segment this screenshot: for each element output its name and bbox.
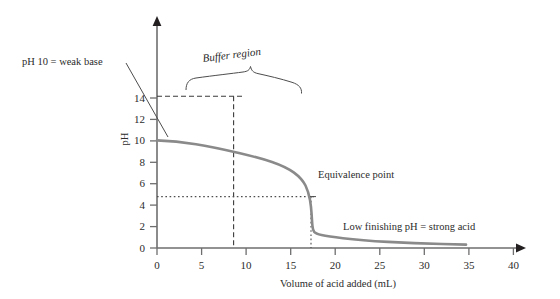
titration-curve-figure: 0 2 4 6 8 10 12 14 0 5 10 15 20	[0, 0, 560, 299]
y-tick-label-2: 2	[140, 220, 146, 232]
x-axis-title: Volume of acid added (mL)	[280, 278, 396, 290]
y-tick-label-0: 0	[140, 242, 146, 254]
equivalence-point-annotation-label: Equivalence point	[318, 169, 394, 180]
y-tick-label-8: 8	[140, 156, 146, 168]
x-tick-label-25: 25	[374, 259, 386, 271]
x-tick-label-10: 10	[241, 259, 253, 271]
y-tick-label-4: 4	[140, 199, 146, 211]
x-tick-label-0: 0	[154, 259, 160, 271]
x-tick-label-35: 35	[463, 259, 475, 271]
y-tick-label-12: 12	[134, 113, 145, 125]
titration-chart: 0 2 4 6 8 10 12 14 0 5 10 15 20	[0, 0, 560, 299]
x-tick-label-15: 15	[285, 259, 297, 271]
x-tick-label-5: 5	[199, 259, 205, 271]
chart-background	[0, 0, 560, 299]
weak-base-annotation-label: pH 10 = weak base	[22, 56, 103, 67]
x-tick-label-30: 30	[419, 259, 431, 271]
y-tick-label-10: 10	[134, 134, 146, 146]
y-axis-title: pH	[119, 132, 130, 145]
x-tick-label-40: 40	[508, 259, 520, 271]
strong-acid-annotation-label: Low finishing pH = strong acid	[343, 221, 476, 232]
y-tick-label-6: 6	[140, 177, 146, 189]
x-tick-label-20: 20	[330, 259, 342, 271]
y-tick-label-14: 14	[134, 92, 146, 104]
